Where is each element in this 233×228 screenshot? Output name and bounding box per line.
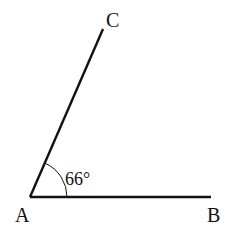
- angle-diagram: C A B 66°: [0, 0, 233, 228]
- angle-label: 66°: [65, 169, 90, 189]
- angle-arc: [45, 163, 67, 197]
- label-a: A: [15, 204, 30, 226]
- label-b: B: [207, 204, 220, 226]
- label-c: C: [106, 9, 119, 31]
